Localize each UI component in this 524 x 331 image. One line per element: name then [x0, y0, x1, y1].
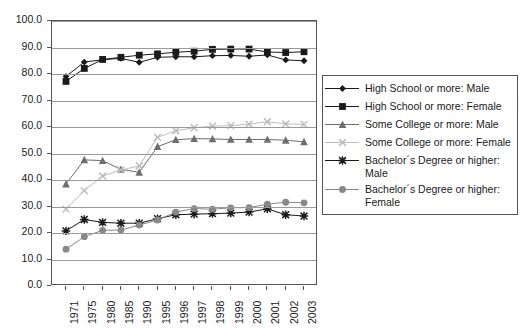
x-tick-label: 1980: [106, 301, 117, 324]
x-tick-mark: [102, 286, 103, 290]
data-point-square: [118, 54, 125, 61]
legend-key-cross-icon: [325, 136, 359, 150]
x-tick-mark: [175, 286, 176, 290]
x-tick-mark: [248, 286, 249, 290]
data-point-square: [209, 46, 216, 53]
data-point-circle: [172, 209, 179, 216]
legend-key-triangle-icon: [325, 118, 359, 132]
series-0: [63, 52, 308, 80]
y-tick-label: 40.0: [22, 173, 42, 184]
x-tick-label: 1999: [234, 301, 245, 324]
gridline: [52, 101, 316, 102]
gridline: [52, 127, 316, 128]
x-tick-label: 2001: [270, 301, 281, 324]
line-chart: 0.010.020.030.040.050.060.070.080.090.01…: [0, 0, 524, 331]
data-point-circle: [339, 186, 346, 193]
data-point-cross: [339, 139, 346, 146]
y-tick-label: 80.0: [22, 67, 42, 78]
legend-marker-circle-icon: [336, 183, 349, 196]
legend-key-diamond-icon: [325, 82, 359, 96]
data-point-circle: [81, 233, 88, 240]
data-point-square: [339, 103, 346, 110]
data-point-square: [264, 49, 271, 56]
gridline: [52, 48, 316, 49]
legend-label: High School or more: Male: [359, 82, 489, 95]
data-point-circle: [282, 199, 289, 206]
data-point-diamond: [136, 59, 143, 66]
data-point-square: [99, 56, 106, 63]
gridline: [52, 74, 316, 75]
y-tick-label: 50.0: [22, 147, 42, 158]
legend-item: High School or more: Male: [325, 82, 513, 96]
legend-item: Some College or more: Female: [325, 136, 513, 150]
x-tick-label: 1990: [142, 301, 153, 324]
x-tick-label: 1998: [215, 301, 226, 324]
gridline: [52, 207, 316, 208]
legend-marker-diamond-icon: [336, 82, 349, 95]
x-tick-label: 1996: [179, 301, 190, 324]
y-tick-label: 10.0: [22, 253, 42, 264]
series-3: [63, 118, 308, 212]
data-point-square: [301, 48, 308, 55]
legend-item: Bachelor´s Degree or higher: Male: [325, 154, 513, 179]
data-point-circle: [63, 246, 70, 253]
x-tick-label: 2000: [252, 301, 263, 324]
x-tick-label: 1975: [87, 301, 98, 324]
data-point-square: [246, 46, 253, 53]
x-axis: 1971197519801985199019951996199719981999…: [51, 286, 317, 331]
data-point-square: [81, 65, 88, 72]
x-tick-mark: [230, 286, 231, 290]
legend-label: Some College or more: Male: [359, 118, 499, 131]
data-point-square: [63, 78, 70, 85]
legend-label: Bachelor´s Degree or higher: Female: [359, 183, 500, 208]
data-point-cross: [81, 187, 88, 194]
legend-key-square-icon: [325, 100, 359, 114]
legend-marker-star-icon: [336, 154, 349, 167]
x-tick-mark: [120, 286, 121, 290]
data-point-cross: [154, 134, 161, 141]
legend-marker-cross-icon: [336, 136, 349, 149]
legend-label: Some College or more: Female: [359, 136, 511, 149]
legend-item: High School or more: Female: [325, 100, 513, 114]
gridline: [52, 233, 316, 234]
y-tick-label: 0.0: [27, 279, 42, 290]
series-4: [62, 205, 308, 235]
x-tick-label: 2002: [289, 301, 300, 324]
gridline: [52, 21, 316, 22]
data-point-square: [227, 46, 234, 53]
plot-area: [51, 20, 317, 285]
legend-key-circle-icon: [325, 183, 359, 197]
x-tick-label: 1995: [161, 301, 172, 324]
gridline: [52, 180, 316, 181]
data-point-diamond: [301, 57, 308, 64]
data-point-diamond: [282, 57, 289, 64]
data-point-circle: [301, 199, 308, 206]
x-tick-mark: [285, 286, 286, 290]
data-point-star: [80, 215, 88, 223]
data-point-square: [172, 49, 179, 56]
x-tick-label: 1971: [69, 301, 80, 324]
x-tick-mark: [211, 286, 212, 290]
data-point-triangle: [339, 121, 347, 128]
legend-item: Bachelor´s Degree or higher: Female: [325, 183, 513, 208]
data-point-circle: [136, 222, 143, 229]
x-tick-mark: [83, 286, 84, 290]
gridline: [52, 260, 316, 261]
legend-label: Bachelor´s Degree or higher: Male: [359, 154, 500, 179]
data-point-square: [282, 49, 289, 56]
x-tick-mark: [138, 286, 139, 290]
y-tick-label: 90.0: [22, 41, 42, 52]
data-point-star: [281, 211, 289, 219]
legend-marker-square-icon: [336, 100, 349, 113]
legend-marker-triangle-icon: [336, 118, 349, 131]
legend-key-star-icon: [325, 154, 359, 168]
data-point-star: [117, 219, 125, 227]
legend-item: Some College or more: Male: [325, 118, 513, 132]
data-point-diamond: [339, 85, 346, 92]
x-tick-mark: [303, 286, 304, 290]
x-tick-label: 1997: [197, 301, 208, 324]
x-tick-label: 2003: [307, 301, 318, 324]
data-point-triangle: [154, 143, 162, 150]
data-point-diamond: [209, 52, 216, 59]
data-point-diamond: [227, 52, 234, 59]
